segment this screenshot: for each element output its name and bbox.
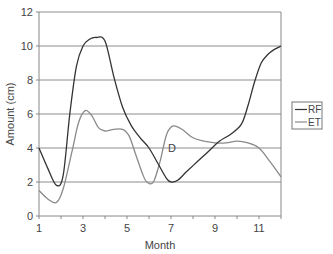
x-tick-label: 11 xyxy=(253,222,264,234)
x-axis-title: Month xyxy=(145,239,176,251)
series-et-line xyxy=(39,110,281,203)
y-tick-label: 4 xyxy=(27,142,33,154)
legend-et-label: ET xyxy=(308,117,321,128)
legend: RF ET xyxy=(292,102,322,129)
y-tick-label: 0 xyxy=(27,210,33,222)
x-tick-label: 1 xyxy=(36,222,42,234)
y-tick-label: 10 xyxy=(21,40,33,52)
line-chart: 024681012 1357911 D Month Amount (cm) RF… xyxy=(0,0,333,254)
y-tick-label: 6 xyxy=(27,108,33,120)
legend-rf-label: RF xyxy=(308,104,321,115)
y-tick-label: 12 xyxy=(21,6,33,18)
y-axis-ticks: 024681012 xyxy=(21,6,39,222)
gridlines xyxy=(39,12,281,182)
y-tick-label: 2 xyxy=(27,176,33,188)
x-tick-label: 5 xyxy=(124,222,130,234)
y-axis-title: Amount (cm) xyxy=(4,83,16,146)
series-lines xyxy=(39,37,281,203)
x-tick-label: 7 xyxy=(168,222,174,234)
x-tick-label: 9 xyxy=(212,222,218,234)
x-axis-ticks: 1357911 xyxy=(36,216,281,234)
y-tick-label: 8 xyxy=(27,74,33,86)
x-tick-label: 3 xyxy=(80,222,86,234)
annotation-d: D xyxy=(168,142,176,154)
